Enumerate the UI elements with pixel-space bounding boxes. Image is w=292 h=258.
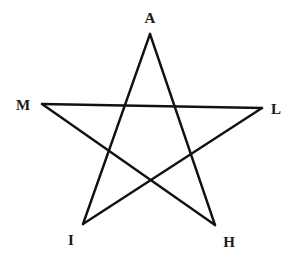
vertex-label-h: H xyxy=(223,234,235,250)
pentagram-diagram: A M L I H xyxy=(0,0,292,258)
vertex-label-l: L xyxy=(271,101,281,117)
edge-a-i xyxy=(83,34,150,224)
edge-h-a xyxy=(150,34,215,225)
vertex-label-m: M xyxy=(16,97,30,113)
vertex-label-a: A xyxy=(145,10,156,26)
star-edges xyxy=(42,34,262,225)
edge-l-m xyxy=(42,104,262,108)
vertex-label-i: I xyxy=(68,232,74,248)
edge-i-l xyxy=(83,108,262,224)
edge-m-h xyxy=(42,104,215,225)
vertex-labels: A M L I H xyxy=(16,10,281,250)
